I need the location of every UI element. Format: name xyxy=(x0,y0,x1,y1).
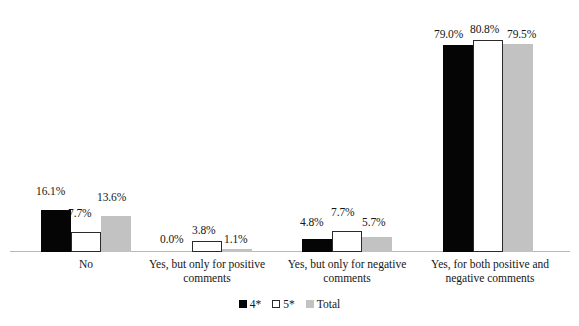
bar-no-total[interactable] xyxy=(101,216,131,252)
legend-label-4star: 4* xyxy=(250,299,262,311)
bar-label-no-4star: 16.1% xyxy=(36,186,65,198)
bar-group-positive-only: 0.0% 3.8% 1.1% xyxy=(162,0,252,252)
legend-swatch-total-icon xyxy=(306,300,314,308)
bar-label-both-5star: 80.8% xyxy=(470,24,499,36)
bar-label-both-total: 79.5% xyxy=(507,29,536,41)
bar-label-positive-only-4star: 0.0% xyxy=(160,234,184,246)
legend-item-5star[interactable]: 5* xyxy=(272,298,295,310)
chart-legend: 4* 5* Total xyxy=(0,298,579,310)
bar-label-positive-only-total: 1.1% xyxy=(224,234,248,246)
bar-both-4star[interactable] xyxy=(443,45,473,252)
bar-no-5star[interactable] xyxy=(71,232,101,252)
category-label-negative-only: Yes, but only for negative comments xyxy=(282,258,412,285)
bar-positive-only-total[interactable] xyxy=(222,249,252,252)
legend-item-total[interactable]: Total xyxy=(306,298,340,310)
bar-positive-only-5star[interactable] xyxy=(192,241,222,252)
bar-negative-only-total[interactable] xyxy=(362,237,392,252)
plot-area: 16.1% 7.7% 13.6% 0.0% 3.8% 1.1% 4.8% 7.7… xyxy=(0,0,579,252)
legend-item-4star[interactable]: 4* xyxy=(239,298,262,310)
bar-both-5star[interactable] xyxy=(473,40,503,252)
bar-label-both-4star: 79.0% xyxy=(434,29,463,41)
bar-group-both: 79.0% 80.8% 79.5% xyxy=(443,0,533,252)
bar-label-no-5star: 7.7% xyxy=(68,208,92,220)
bar-label-no-total: 13.6% xyxy=(97,192,126,204)
bar-label-negative-only-5star: 7.7% xyxy=(331,207,355,219)
legend-label-5star: 5* xyxy=(283,299,295,311)
category-label-no: No xyxy=(46,258,126,272)
legend-swatch-4star-icon xyxy=(239,300,247,308)
bar-negative-only-5star[interactable] xyxy=(332,231,362,252)
bar-label-negative-only-4star: 4.8% xyxy=(300,217,324,229)
bar-group-negative-only: 4.8% 7.7% 5.7% xyxy=(302,0,392,252)
bar-group-no: 16.1% 7.7% 13.6% xyxy=(41,0,131,252)
grouped-bar-chart: 16.1% 7.7% 13.6% 0.0% 3.8% 1.1% 4.8% 7.7… xyxy=(0,0,579,326)
bar-label-positive-only-5star: 3.8% xyxy=(192,225,216,237)
category-label-positive-only: Yes, but only for positive comments xyxy=(142,258,272,285)
category-label-both: Yes, for both positive and negative comm… xyxy=(420,258,560,285)
bar-negative-only-4star[interactable] xyxy=(302,239,332,252)
bar-both-total[interactable] xyxy=(503,44,533,252)
legend-swatch-5star-icon xyxy=(272,300,280,308)
bar-label-negative-only-total: 5.7% xyxy=(362,217,386,229)
bar-no-4star[interactable] xyxy=(41,210,71,252)
legend-label-total: Total xyxy=(317,299,340,311)
